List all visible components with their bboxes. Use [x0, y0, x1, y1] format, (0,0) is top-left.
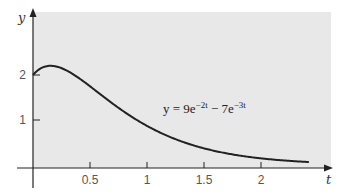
- x-tick-label: 1.5: [196, 173, 213, 187]
- x-tick-label: 0.5: [82, 173, 99, 187]
- x-tick-label: 1: [144, 173, 151, 187]
- y-tick-label: 1: [19, 113, 26, 127]
- x-tick-label: 2: [258, 173, 265, 187]
- y-axis-label: y: [17, 10, 26, 25]
- x-axis-label: t: [326, 172, 332, 187]
- chart: 0.511.52 t 12 y y = 9e−2t − 7e−3t: [0, 0, 353, 195]
- plot-area: [33, 12, 331, 168]
- y-tick-label: 2: [19, 68, 26, 82]
